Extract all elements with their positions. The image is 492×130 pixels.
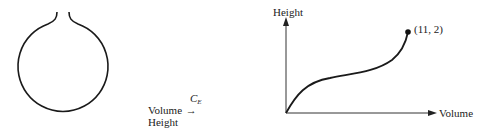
x-axis-label: Volume: [439, 108, 473, 119]
mapping-arrow-icon: →: [186, 104, 197, 116]
y-axis-label: Height: [273, 7, 303, 18]
mapping-from: Volume: [148, 104, 182, 116]
y-axis-arrow-icon: [283, 17, 289, 26]
endpoint-label: (11, 2): [414, 24, 443, 35]
mapping-row: Volume → Height: [148, 104, 230, 128]
height-volume-curve: [286, 32, 408, 113]
endpoint-marker: [405, 29, 411, 35]
mapping-to: Height: [148, 116, 178, 128]
flask-outline: [18, 12, 108, 111]
figure-canvas: [0, 0, 492, 130]
mapping-notation: CE Volume → Height: [148, 92, 230, 118]
x-axis-arrow-icon: [428, 110, 437, 116]
